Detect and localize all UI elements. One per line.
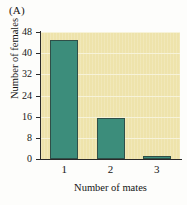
y-tick-label: 16	[8, 112, 32, 122]
y-tick-mark	[36, 32, 41, 33]
y-tick-label: 40	[8, 48, 32, 58]
bar	[97, 118, 125, 159]
y-tick-mark	[36, 53, 41, 54]
x-tick-label: 2	[96, 163, 126, 175]
y-tick-label: 24	[8, 91, 32, 101]
bar-chart-figure: (A) Number of females 081624324048 123 N…	[0, 0, 187, 205]
x-axis-title: Number of mates	[41, 182, 180, 193]
y-tick-mark	[36, 138, 41, 139]
y-tick-mark	[36, 159, 41, 160]
x-tick-label: 3	[142, 163, 172, 175]
x-tick-label: 1	[49, 163, 79, 175]
y-tick-label: 0	[8, 154, 32, 164]
y-tick-mark	[36, 117, 41, 118]
y-tick-label: 8	[8, 133, 32, 143]
y-tick-label: 48	[8, 27, 32, 37]
bar	[50, 40, 78, 159]
y-tick-label: 32	[8, 69, 32, 79]
plot-area	[41, 32, 180, 159]
y-axis-title: Number of females	[9, 0, 20, 120]
gridline	[41, 32, 180, 33]
x-axis-line	[40, 159, 182, 160]
y-tick-mark	[36, 74, 41, 75]
y-tick-mark	[36, 96, 41, 97]
